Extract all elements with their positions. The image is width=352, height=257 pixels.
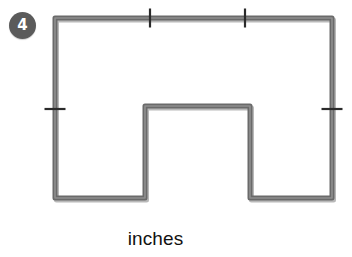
u-shape-figure: [0, 0, 352, 257]
unit-label: inches: [0, 228, 311, 250]
figure-outline-shadow: [57, 20, 334, 200]
worksheet-problem-card: 4 inches: [0, 0, 352, 257]
figure-outline-path: [55, 18, 332, 198]
